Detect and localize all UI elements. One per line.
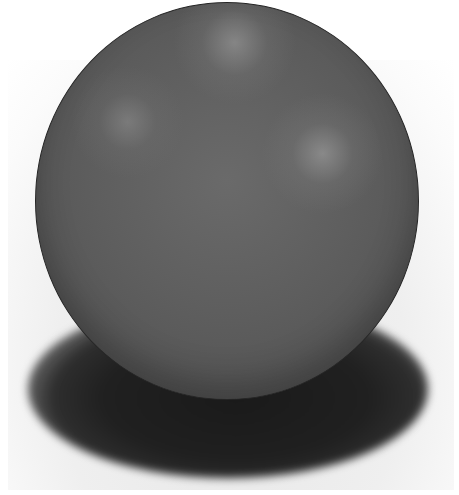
sphere bbox=[35, 2, 419, 400]
